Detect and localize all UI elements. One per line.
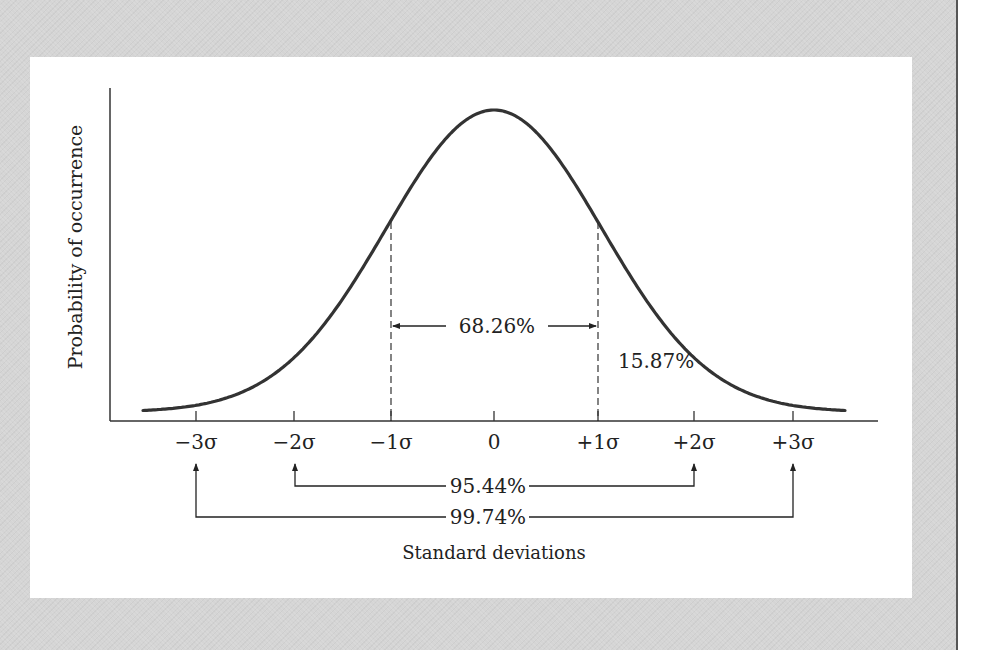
tick-label-minus-2sigma: −2σ	[272, 430, 315, 454]
label-95-percent: 95.44%	[450, 474, 526, 498]
x-axis-tick-labels: −3σ −2σ −1σ 0 +1σ +2σ +3σ	[174, 430, 814, 454]
normal-distribution-chart: 68.26% 15.87% −3σ −2σ −1σ 0 +1σ +2σ +3σ …	[0, 0, 985, 650]
tick-label-plus-1sigma: +1σ	[576, 430, 619, 454]
tick-label-zero: 0	[488, 430, 501, 454]
x-axis-ticks	[196, 411, 793, 421]
bracket-95-percent: 95.44%	[295, 464, 694, 498]
label-68-percent: 68.26%	[459, 314, 535, 338]
label-15-percent: 15.87%	[618, 349, 694, 373]
bell-curve	[143, 110, 845, 411]
tick-label-minus-1sigma: −1σ	[369, 430, 412, 454]
y-axis-title: Probability of occurrence	[64, 125, 86, 370]
tick-label-minus-3sigma: −3σ	[174, 430, 217, 454]
label-99-percent: 99.74%	[450, 505, 526, 529]
tick-label-plus-3sigma: +3σ	[771, 430, 814, 454]
x-axis-title: Standard deviations	[402, 542, 585, 563]
tick-label-plus-2sigma: +2σ	[672, 430, 715, 454]
